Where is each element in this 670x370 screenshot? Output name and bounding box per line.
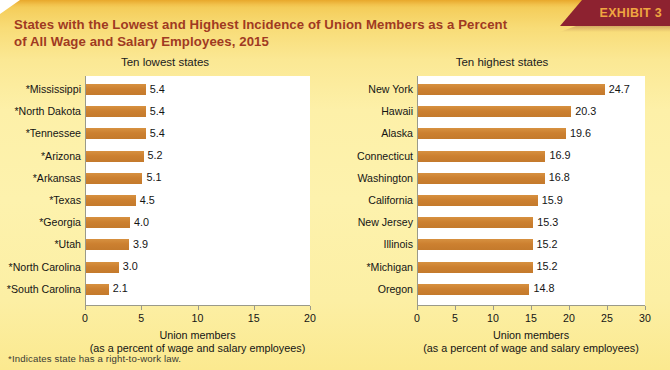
bar [417,239,533,250]
bar-row: Illinois15.2 [335,234,670,256]
bar-row: California15.9 [335,190,670,212]
bar-row: New York24.7 [335,79,670,101]
bar-value-label: 3.9 [133,238,148,250]
title-line-2: of All Wage and Salary Employees, 2015 [14,33,554,50]
bar-value-label: 24.7 [609,83,630,95]
bar-category-label: Oregon [335,283,413,295]
x-axis-tick [310,306,311,310]
x-axis-tick [85,306,86,310]
x-axis-tick-label: 5 [138,312,144,324]
bar-row: *Tennessee5.4 [0,123,335,145]
bar-row: *Utah3.9 [0,234,335,256]
bar-value-label: 5.4 [150,105,165,117]
bar [417,217,533,228]
bar-category-label: Connecticut [335,150,413,162]
bar-row: *North Carolina3.0 [0,257,335,279]
bar-category-label: *Arizona [0,150,81,162]
bar [417,284,529,295]
bar-value-label: 5.1 [146,171,161,183]
bar-value-label: 15.3 [537,216,558,228]
bar [85,195,136,206]
x-axis-tick-label: 25 [601,312,613,324]
page-title: States with the Lowest and Highest Incid… [14,16,554,50]
bar-row: Oregon14.8 [335,279,670,301]
bar-row: *Texas4.5 [0,190,335,212]
y-axis-spine [417,76,418,305]
bar-row: *Michigan15.2 [335,257,670,279]
bar-value-label: 5.4 [150,127,165,139]
bar [417,195,538,206]
bar [417,151,545,162]
x-axis-tick-label: 0 [82,312,88,324]
footnote: *Indicates state has a right-to-work law… [8,353,181,364]
bar-category-label: New York [335,83,413,95]
bar [85,128,146,139]
bar [85,217,130,228]
plot-wrap-highest: New York24.7Hawaii20.3Alaska19.6Connecti… [335,76,670,316]
bar-category-label: Illinois [335,238,413,250]
bar [85,106,146,117]
exhibit-figure: EXHIBIT 3 States with the Lowest and Hig… [0,0,670,370]
bar-row: Connecticut16.9 [335,146,670,168]
bar-value-label: 4.5 [140,194,155,206]
bar-value-label: 20.3 [575,105,596,117]
bar-category-label: *Utah [0,238,81,250]
x-axis-tick-label: 5 [452,312,458,324]
bar-category-label: Washington [335,172,413,184]
x-axis-tick-label: 0 [414,312,420,324]
bar-category-label: *Georgia [0,216,81,228]
bar-row: *Arkansas5.1 [0,168,335,190]
x-axis-sublabel-highest: (as a percent of wage and salary employe… [423,342,638,354]
exhibit-label: EXHIBIT 3 [600,6,662,20]
bar [85,151,144,162]
x-axis-tick-label: 10 [487,312,499,324]
y-axis-spine [85,76,86,305]
corner-cut-decoration [0,0,20,14]
plot-wrap-lowest: *Mississippi5.4*North Dakota5.4*Tennesse… [0,76,335,316]
bar-row: Washington16.8 [335,168,670,190]
x-axis-tick-label: 20 [563,312,575,324]
bar [417,84,605,95]
x-axis-tick [607,306,608,310]
bar-value-label: 14.8 [533,282,554,294]
bar-value-label: 19.6 [570,127,591,139]
x-axis-tick [417,306,418,310]
x-axis-label-highest: Union members [493,329,569,341]
x-axis-tick [198,306,199,310]
x-axis-tick [254,306,255,310]
bar-category-label: *North Dakota [0,105,81,117]
bar-value-label: 15.9 [542,194,563,206]
bar-value-label: 4.0 [134,216,149,228]
bar-row: *Mississippi5.4 [0,79,335,101]
x-axis-tick-label: 20 [304,312,316,324]
bar-value-label: 5.4 [150,83,165,95]
bar-rows-highest: New York24.7Hawaii20.3Alaska19.6Connecti… [335,76,670,305]
bar-category-label: *Arkansas [0,172,81,184]
bar-category-label: *Texas [0,194,81,206]
x-axis-tick [569,306,570,310]
bar-category-label: *South Carolina [0,283,81,295]
bar-value-label: 16.9 [549,149,570,161]
bar-row: *South Carolina2.1 [0,279,335,301]
bar-rows-lowest: *Mississippi5.4*North Dakota5.4*Tennesse… [0,76,335,305]
bar-value-label: 3.0 [123,260,138,272]
bar-category-label: *Mississippi [0,83,81,95]
top-accent-band [0,0,670,7]
bar [85,262,119,273]
bar [417,173,545,184]
x-axis-tick [645,306,646,310]
bar-value-label: 15.2 [537,238,558,250]
bar-value-label: 15.2 [537,260,558,272]
bar-row: *Arizona5.2 [0,146,335,168]
chart-subtitle-highest: Ten highest states [377,56,627,68]
bar-row: *North Dakota5.4 [0,101,335,123]
bar [85,173,142,184]
bar-category-label: *Michigan [335,261,413,273]
bar-row: Hawaii20.3 [335,101,670,123]
bar-category-label: *North Carolina [0,261,81,273]
bar [417,262,533,273]
bar [417,128,566,139]
bar-category-label: California [335,194,413,206]
x-axis-tick-label: 15 [248,312,260,324]
chart-subtitle-lowest: Ten lowest states [45,56,285,68]
